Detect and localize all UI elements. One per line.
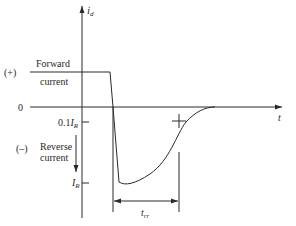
reverse-sign: (–) <box>16 143 28 154</box>
tenth-ir-label: 0.1IR <box>58 117 78 132</box>
y-axis-subscript: d <box>90 10 94 18</box>
zero-label: 0 <box>18 102 23 113</box>
trr-label: trr <box>141 207 149 222</box>
tenth-sub: R <box>74 122 78 130</box>
peak-sub: R <box>75 182 79 190</box>
trr-sub: rr <box>144 212 149 220</box>
peak-ir-label: IR <box>72 177 80 192</box>
forward-label-line2: current <box>40 76 68 87</box>
forward-sign: (+) <box>4 67 16 78</box>
tenth-value: 0.1 <box>58 117 71 128</box>
current-waveform <box>110 72 215 184</box>
x-axis-label: t <box>278 112 281 123</box>
waveform-diagram <box>0 0 296 226</box>
y-axis-label: id <box>87 5 94 20</box>
reverse-label-line1: Reverse <box>40 141 72 152</box>
reverse-label-line2: current <box>40 152 68 163</box>
forward-label-line1: Forward <box>36 58 70 69</box>
